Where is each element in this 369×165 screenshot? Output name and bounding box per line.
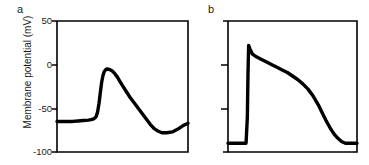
y-tick-label-minus-100: -100	[33, 147, 52, 157]
panel-b-y-ticks	[221, 21, 228, 152]
panel-label-b: b	[208, 4, 214, 15]
figure-container: a b Membrane potential (mV) 50 0 -50 -10…	[0, 0, 369, 165]
y-tick-label-50: 50	[41, 16, 52, 26]
y-axis-tick-labels: 50 0 -50 -100	[18, 0, 52, 165]
panel-a-trace	[57, 69, 188, 133]
panel-b-axes	[221, 21, 357, 152]
plot-area	[0, 0, 369, 165]
panel-b-trace	[228, 45, 357, 143]
y-tick-label-0: 0	[47, 60, 52, 70]
y-tick-label-minus-50: -50	[38, 104, 52, 114]
